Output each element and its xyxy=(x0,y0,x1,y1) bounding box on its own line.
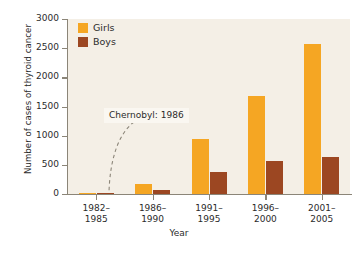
x-axis-tick-label: 1982–1985 xyxy=(66,203,126,225)
y-axis-tick xyxy=(62,194,67,195)
bar-boys-2 xyxy=(210,172,227,194)
y-axis-tick xyxy=(62,19,67,20)
y-axis-tick-label: 2000 xyxy=(0,71,59,81)
bar-boys-0 xyxy=(97,193,114,194)
thyroid-cancer-bar-chart: Number of cases of thyroid cancer 050010… xyxy=(0,0,358,254)
x-axis-tick-label: 1991–1995 xyxy=(179,203,239,225)
y-axis-tick xyxy=(62,165,67,166)
x-axis-tick xyxy=(265,195,266,200)
y-axis-tick-label: 1500 xyxy=(0,101,59,111)
legend-entry-boys: Boys xyxy=(78,35,116,48)
x-axis-tick-label: 1996–2000 xyxy=(235,203,295,225)
y-axis-tick xyxy=(62,136,67,137)
chernobyl-annotation: Chernobyl: 1986 xyxy=(104,108,189,123)
bar-girls-0 xyxy=(79,193,96,194)
y-axis-tick-label: 2500 xyxy=(0,42,59,52)
y-axis-tick xyxy=(62,107,67,108)
x-axis-tick xyxy=(96,195,97,200)
chart-legend: GirlsBoys xyxy=(78,21,116,49)
x-axis-tick xyxy=(209,195,210,200)
x-axis-tick xyxy=(153,195,154,200)
y-axis-line xyxy=(67,19,68,195)
y-axis-tick xyxy=(62,48,67,49)
x-axis-tick-label: 1986–1990 xyxy=(123,203,183,225)
y-axis-tick-label: 3000 xyxy=(0,13,59,23)
x-axis-tick-label: 2001–2005 xyxy=(292,203,352,225)
bar-girls-4 xyxy=(304,44,321,194)
legend-swatch-boys xyxy=(78,37,88,47)
y-axis-tick-label: 0 xyxy=(0,188,59,198)
bar-girls-1 xyxy=(135,184,152,194)
bar-girls-3 xyxy=(248,96,265,194)
bar-girls-2 xyxy=(192,139,209,194)
legend-swatch-girls xyxy=(78,23,88,33)
y-axis-tick-label: 500 xyxy=(0,159,59,169)
bar-boys-4 xyxy=(322,157,339,194)
x-axis-tick xyxy=(322,195,323,200)
legend-entry-girls: Girls xyxy=(78,21,116,34)
x-axis-title: Year xyxy=(0,228,358,238)
y-axis-tick-label: 1000 xyxy=(0,130,59,140)
legend-label-girls: Girls xyxy=(93,22,115,33)
bar-boys-1 xyxy=(153,190,170,194)
legend-label-boys: Boys xyxy=(93,36,116,47)
y-axis-tick xyxy=(62,77,67,78)
bar-boys-3 xyxy=(266,161,283,194)
